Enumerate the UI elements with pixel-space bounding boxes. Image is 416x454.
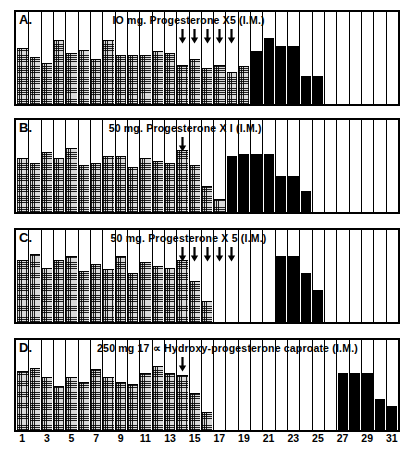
day-gridline: [336, 12, 337, 104]
stippled-bar: [153, 161, 163, 212]
stippled-bar: [103, 269, 113, 322]
day-gridline: [324, 230, 325, 322]
stippled-bar: [190, 59, 200, 104]
x-tick-label: 17: [213, 432, 225, 444]
stippled-bar: [66, 377, 76, 430]
stippled-bar: [165, 373, 175, 430]
stippled-bar: [214, 199, 224, 212]
stippled-bar: [30, 368, 40, 430]
stippled-bar: [103, 377, 113, 430]
panel-c: C. 50 mg. Progesterone X 5 (I.M.): [14, 228, 400, 324]
stippled-bar: [116, 382, 126, 430]
day-gridline: [324, 120, 325, 212]
stippled-bar: [103, 40, 113, 104]
stippled-bar: [153, 366, 163, 430]
stippled-bar: [79, 271, 89, 322]
stippled-bar: [239, 66, 249, 104]
x-tick-label: 3: [44, 432, 50, 444]
stippled-bar: [17, 158, 27, 212]
day-gridline: [336, 120, 337, 212]
stippled-bar: [91, 264, 101, 322]
stippled-bar: [177, 375, 187, 430]
solid-bar: [239, 154, 249, 212]
stippled-bar: [153, 266, 163, 322]
solid-bar: [264, 154, 274, 212]
solid-bar: [362, 373, 372, 430]
day-gridline: [349, 230, 350, 322]
day-gridline: [386, 12, 387, 104]
injection-arrow-icon: [190, 29, 199, 44]
stippled-bar: [177, 65, 187, 104]
stippled-bar: [91, 59, 101, 104]
day-gridline: [349, 120, 350, 212]
x-tick-label: 1: [19, 432, 25, 444]
stippled-bar: [140, 373, 150, 430]
solid-bar: [301, 273, 311, 322]
panel-d: D. 250 mg 17 ∝ Hydroxy-progesterone capr…: [14, 338, 400, 432]
x-tick-label: 5: [69, 432, 75, 444]
solid-bar: [227, 156, 237, 212]
solid-bar: [313, 290, 323, 322]
stippled-bar: [177, 260, 187, 322]
injection-arrow-icon: [203, 29, 212, 44]
stippled-bar: [116, 55, 126, 104]
x-tick-label: 31: [386, 432, 398, 444]
stippled-bar: [42, 377, 52, 430]
stippled-bar: [128, 384, 138, 430]
stippled-bar: [54, 158, 64, 212]
stippled-bar: [165, 268, 175, 322]
x-tick-label: 21: [263, 432, 275, 444]
stippled-bar: [140, 158, 150, 212]
stippled-bar: [202, 186, 212, 212]
injection-arrow-icon: [190, 247, 199, 262]
panel-d-letter: D.: [19, 341, 32, 354]
panel-b: B. 50 mg. Progesterone X I (I.M.): [14, 118, 400, 214]
x-tick-label: 15: [189, 432, 201, 444]
stippled-bar: [30, 254, 40, 322]
solid-bar: [387, 406, 397, 430]
panel-b-title: 50 mg. Progesterone X I (I.M.): [109, 122, 262, 134]
stippled-bar: [140, 262, 150, 322]
stippled-bar: [66, 53, 76, 104]
day-gridline: [386, 230, 387, 322]
stippled-bar: [79, 382, 89, 430]
panel-a-title: IO mg. Progesterone X5 (I.M.): [113, 14, 265, 26]
x-tick-label: 11: [140, 432, 151, 444]
x-axis-labels: 135791113151719212325272931: [14, 432, 400, 450]
solid-bar: [350, 373, 360, 430]
day-gridline: [386, 120, 387, 212]
stippled-bar: [42, 63, 52, 104]
day-gridline: [373, 230, 374, 322]
injection-arrow-icon: [215, 29, 224, 44]
day-gridline: [361, 12, 362, 104]
injection-arrow-icon: [215, 247, 224, 262]
stippled-bar: [54, 40, 64, 104]
x-tick-label: 13: [164, 432, 176, 444]
solid-bar: [251, 51, 261, 104]
stippled-bar: [116, 256, 126, 322]
solid-bar: [301, 191, 311, 212]
stippled-bar: [128, 273, 138, 322]
injection-arrow-icon: [178, 247, 187, 262]
solid-bar: [375, 399, 385, 430]
stippled-bar: [177, 150, 187, 212]
stippled-bar: [91, 369, 101, 430]
stippled-bar: [66, 148, 76, 212]
injection-arrow-icon: [227, 247, 236, 262]
stippled-bar: [42, 152, 52, 212]
stippled-bar: [116, 156, 126, 212]
stippled-bar: [79, 165, 89, 212]
panel-d-title: 250 mg 17 ∝ Hydroxy-progesterone caproat…: [97, 342, 358, 354]
stippled-bar: [128, 167, 138, 212]
solid-bar: [276, 176, 286, 212]
stippled-bar: [42, 268, 52, 322]
panel-c-title: 50 mg. Progesterone X 5 (I.M.): [111, 232, 267, 244]
x-tick-label: 9: [118, 432, 124, 444]
injection-arrow-icon: [178, 29, 187, 44]
day-gridline: [336, 230, 337, 322]
stippled-bar: [214, 65, 224, 104]
injection-arrow-icon: [227, 29, 236, 44]
panel-a: A. IO mg. Progesterone X5 (I.M.): [14, 10, 400, 106]
panel-c-letter: C.: [19, 231, 32, 244]
stippled-bar: [140, 55, 150, 104]
